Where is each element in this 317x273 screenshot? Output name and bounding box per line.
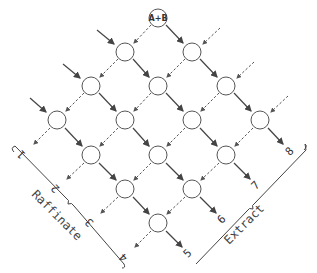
stage-nodes: A+B <box>48 9 269 232</box>
svg-text:1: 1 <box>15 148 29 162</box>
svg-text:8: 8 <box>283 145 297 159</box>
extract-brace <box>196 144 306 264</box>
feed-label: A+B <box>149 14 168 23</box>
svg-text:5: 5 <box>181 247 195 261</box>
solvent-inlet-arrows <box>30 30 114 112</box>
feed-inlet-arrows <box>203 28 288 112</box>
raffinate-label: Raffinate <box>29 187 85 243</box>
cascade-diagram: A+B 1 2 3 4 5 6 7 8 Raffinate Extract <box>0 0 317 273</box>
svg-text:2: 2 <box>49 182 63 196</box>
extract-label: Extract <box>221 201 267 247</box>
svg-text:7: 7 <box>249 179 263 193</box>
extract-outlet-labels: 5 6 7 8 <box>181 145 297 261</box>
raffinate-outlet-labels: 1 2 3 4 <box>15 148 131 265</box>
svg-text:6: 6 <box>215 213 229 227</box>
